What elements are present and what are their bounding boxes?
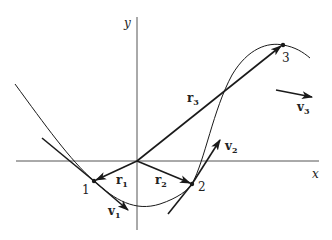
r3-label: r3	[187, 91, 199, 107]
point-1-dot	[92, 179, 96, 183]
velocity-vector-v3	[276, 90, 312, 97]
r2-label: r2	[155, 173, 167, 189]
position-vector-r3	[137, 46, 281, 161]
r1-label: r1	[116, 173, 128, 189]
point-1-label: 1	[82, 183, 90, 197]
point-2-label: 2	[198, 180, 206, 194]
x-axis-label: x	[312, 167, 319, 181]
point-3-dot	[281, 43, 285, 47]
v1-label: v1	[107, 204, 121, 220]
point-2-dot	[190, 182, 194, 186]
v3-label: v3	[296, 100, 310, 116]
v2-label: v2	[224, 139, 238, 155]
tangent-line-1	[42, 138, 94, 181]
y-axis-label: y	[123, 16, 131, 30]
motion-diagram: y x 1 2 3 r1 r2 r3 v1 v2 v3	[0, 0, 332, 240]
point-3-label: 3	[282, 51, 290, 65]
